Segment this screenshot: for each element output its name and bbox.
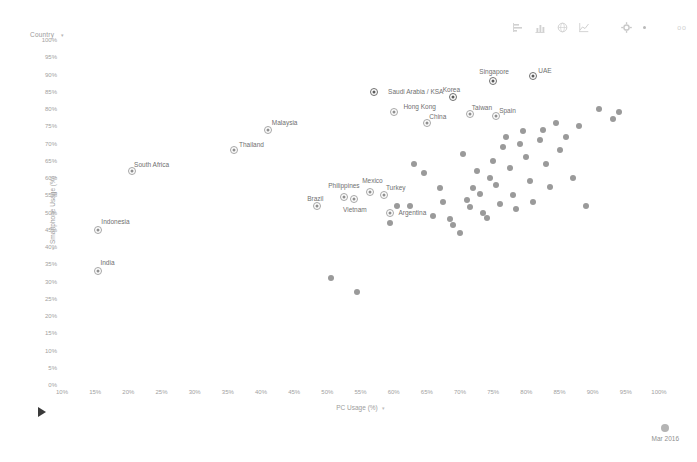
gear-icon[interactable] <box>621 22 632 33</box>
data-point-hong-kong[interactable] <box>390 108 398 116</box>
x-axis-tick: 10% <box>56 389 68 395</box>
data-point[interactable] <box>570 175 576 181</box>
x-axis-tick: 15% <box>89 389 101 395</box>
data-point[interactable] <box>537 137 543 143</box>
bar-chart-icon[interactable] <box>513 22 524 33</box>
y-axis-tick: 75% <box>45 123 57 129</box>
timeline-control[interactable]: Mar 2016 <box>652 424 679 442</box>
data-point[interactable] <box>610 116 616 122</box>
y-axis-tick: 100% <box>42 37 57 43</box>
data-point-india[interactable] <box>94 267 102 275</box>
data-point-south-africa[interactable] <box>128 167 136 175</box>
plot-background <box>62 40 659 385</box>
data-point-taiwan[interactable] <box>466 110 474 118</box>
data-point-vietnam[interactable] <box>350 195 358 203</box>
data-point[interactable] <box>467 204 473 210</box>
data-point-brazil[interactable] <box>313 202 321 210</box>
data-point-label: India <box>100 259 114 266</box>
data-point-turkey[interactable] <box>380 191 388 199</box>
data-point[interactable] <box>553 120 559 126</box>
data-point[interactable] <box>563 134 569 140</box>
data-point[interactable] <box>540 127 546 133</box>
y-axis-tick: 20% <box>45 313 57 319</box>
data-point[interactable] <box>510 192 516 198</box>
data-point[interactable] <box>470 185 476 191</box>
data-point-uae[interactable] <box>529 72 537 80</box>
data-point[interactable] <box>500 144 506 150</box>
data-point-mexico[interactable] <box>366 188 374 196</box>
data-point-label: Malaysia <box>272 118 298 125</box>
data-point[interactable] <box>513 206 519 212</box>
timeline-date-label: Mar 2016 <box>652 435 679 442</box>
data-point-label: South Africa <box>134 161 169 168</box>
data-point[interactable] <box>547 184 553 190</box>
data-point-indonesia[interactable] <box>94 226 102 234</box>
data-point[interactable] <box>411 161 417 167</box>
data-point-argentina[interactable] <box>386 209 394 217</box>
data-point[interactable] <box>440 199 446 205</box>
data-point[interactable] <box>527 178 533 184</box>
x-axis-tick: 70% <box>454 389 466 395</box>
data-point[interactable] <box>543 161 549 167</box>
globe-icon[interactable] <box>557 22 568 33</box>
x-axis-tick: 40% <box>255 389 267 395</box>
x-axis-tick: 90% <box>587 389 599 395</box>
x-axis-tick: 55% <box>354 389 366 395</box>
data-point[interactable] <box>457 230 463 236</box>
play-button[interactable] <box>38 407 46 417</box>
data-point-label: Mexico <box>362 176 383 183</box>
column-chart-icon[interactable] <box>535 22 546 33</box>
data-point[interactable] <box>484 215 490 221</box>
data-point[interactable] <box>616 109 622 115</box>
data-point[interactable] <box>497 201 503 207</box>
data-point-philippines[interactable] <box>340 193 348 201</box>
data-point-singapore[interactable] <box>489 77 497 85</box>
data-point[interactable] <box>503 134 509 140</box>
data-point-thailand[interactable] <box>230 146 238 154</box>
data-point[interactable] <box>450 222 456 228</box>
data-point-label: Saudi Arabia / KSA <box>388 87 443 94</box>
data-point[interactable] <box>354 289 360 295</box>
data-point[interactable] <box>507 165 513 171</box>
timeline-handle[interactable] <box>661 424 669 432</box>
y-axis-tick: 95% <box>45 54 57 60</box>
data-point[interactable] <box>477 191 483 197</box>
overflow-menu-icon[interactable] <box>643 26 646 29</box>
data-point[interactable] <box>464 197 470 203</box>
scatter-plot: 100%95%90%85%80%75%70%65%60%55%50%45%40%… <box>62 40 659 385</box>
data-point[interactable] <box>387 220 393 226</box>
data-point[interactable] <box>490 158 496 164</box>
data-point[interactable] <box>530 199 536 205</box>
data-point[interactable] <box>430 213 436 219</box>
x-axis-tick: 85% <box>553 389 565 395</box>
data-point[interactable] <box>523 154 529 160</box>
data-point[interactable] <box>576 123 582 129</box>
x-axis-tick: 45% <box>288 389 300 395</box>
data-point-label: Philippines <box>328 181 359 188</box>
data-point-saudi-arabia-ksa[interactable] <box>370 88 378 96</box>
x-axis-tick: 75% <box>487 389 499 395</box>
data-point-label: Spain <box>499 106 516 113</box>
data-point[interactable] <box>421 170 427 176</box>
x-axis-tick: 95% <box>620 389 632 395</box>
data-point[interactable] <box>437 185 443 191</box>
data-point-korea[interactable] <box>449 93 457 101</box>
data-point[interactable] <box>583 203 589 209</box>
data-point-malaysia[interactable] <box>264 126 272 134</box>
data-point[interactable] <box>328 275 334 281</box>
data-point[interactable] <box>474 168 480 174</box>
y-axis-label-text: Smartphone Usage (%) <box>49 176 56 244</box>
x-axis-tick: 80% <box>520 389 532 395</box>
data-point[interactable] <box>487 175 493 181</box>
data-point[interactable] <box>557 147 563 153</box>
data-point[interactable] <box>520 128 526 134</box>
data-point[interactable] <box>460 151 466 157</box>
y-axis-tick: 65% <box>45 158 57 164</box>
data-point[interactable] <box>596 106 602 112</box>
data-point-china[interactable] <box>423 119 431 127</box>
line-chart-icon[interactable] <box>579 22 590 33</box>
data-point-label: Turkey <box>386 184 406 191</box>
data-point[interactable] <box>517 141 523 147</box>
data-point-label: Brazil <box>307 194 323 201</box>
data-point[interactable] <box>493 182 499 188</box>
